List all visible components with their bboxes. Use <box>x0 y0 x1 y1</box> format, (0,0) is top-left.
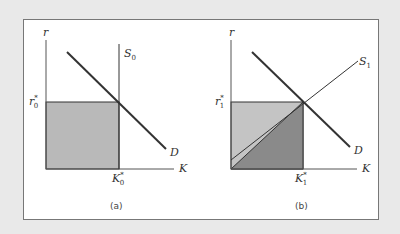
supply-label-a: S0 <box>124 47 136 62</box>
demand-label-b: D <box>353 144 363 157</box>
caption-a: (a) <box>110 201 123 211</box>
k-star-label-b: K*1 <box>294 171 307 187</box>
y-axis-label-a: r <box>43 26 49 39</box>
y-axis-label-b: r <box>229 26 235 39</box>
supply-label-b: S1 <box>359 55 371 70</box>
r-star-label-a: r*0 <box>29 94 38 110</box>
k-star-label-a: K*0 <box>111 171 124 187</box>
r-star-label-b: r*1 <box>215 94 224 110</box>
shaded-area-a <box>46 102 119 169</box>
panel-a: r K S0 D r*0 K*0 (a) <box>29 26 188 211</box>
x-axis-label-a: K <box>178 162 188 175</box>
caption-b: (b) <box>295 201 308 211</box>
demand-label-a: D <box>169 146 179 159</box>
panel-b: r K S1 D r*1 K*1 (b) <box>215 26 371 211</box>
x-axis-label-b: K <box>361 162 371 175</box>
figure-canvas: r K S0 D r*0 K*0 (a) r K S1 D r*1 K*1 (b… <box>0 0 400 234</box>
